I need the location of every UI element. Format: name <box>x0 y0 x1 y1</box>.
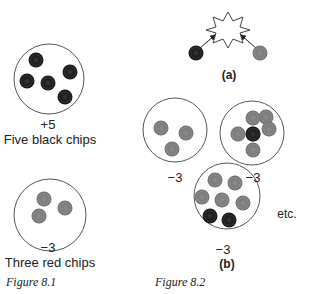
black-chip <box>222 213 237 228</box>
black-chip <box>29 53 44 68</box>
label-part-b: (b) <box>219 258 234 270</box>
red-chip <box>262 122 277 137</box>
label-five-black-chips: Five black chips <box>4 133 96 146</box>
black-chip <box>41 76 56 91</box>
caption-figure-8-2: Figure 8.2 <box>155 276 205 288</box>
red-chip <box>231 127 246 142</box>
red-chip <box>37 192 52 207</box>
panel-five-black-chips <box>14 44 84 114</box>
chip-model-figures: +5 Five black chips −3 Three red chips F… <box>0 0 310 294</box>
panel-b-three-red <box>143 98 207 162</box>
black-chip <box>58 90 73 105</box>
red-chip <box>246 143 261 158</box>
value-minus-three-right: −3 <box>246 171 261 184</box>
red-chip <box>215 193 230 208</box>
red-chip <box>208 173 223 188</box>
red-chip <box>253 46 268 61</box>
red-chip <box>246 111 261 126</box>
label-etc: etc. <box>277 208 296 220</box>
label-part-a: (a) <box>222 69 237 81</box>
value-minus-three-bottom: −3 <box>216 243 231 256</box>
red-chip <box>32 209 47 224</box>
label-three-red-chips: Three red chips <box>5 256 95 269</box>
black-chip <box>189 46 204 61</box>
red-chip <box>58 201 73 216</box>
black-chip <box>63 65 78 80</box>
collision-diagram <box>189 12 268 61</box>
value-minus-three-left: −3 <box>168 171 183 184</box>
value-minus-three: −3 <box>41 241 56 254</box>
black-chip <box>20 74 35 89</box>
red-chip <box>236 196 251 211</box>
red-chip <box>179 126 194 141</box>
red-chip <box>228 176 243 191</box>
value-plus-five: +5 <box>41 118 56 131</box>
black-chip <box>203 209 218 224</box>
red-chip <box>165 142 180 157</box>
red-chip <box>195 190 210 205</box>
caption-figure-8-1: Figure 8.1 <box>6 276 56 288</box>
starburst-icon <box>206 12 250 48</box>
panel-b-four-red-one-black <box>220 101 284 165</box>
red-chip <box>154 121 169 136</box>
black-chip <box>246 127 261 142</box>
